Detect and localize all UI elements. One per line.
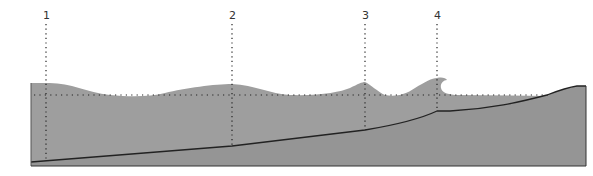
marker-label-3: 3 (362, 10, 369, 21)
marker-label-1: 1 (43, 10, 50, 21)
wave-diagram (0, 0, 593, 176)
marker-label-4: 4 (434, 10, 441, 21)
marker-label-2: 2 (229, 10, 236, 21)
